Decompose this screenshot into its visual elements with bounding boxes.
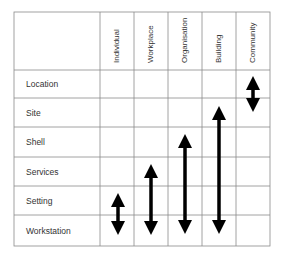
scale-matrix-diagram: Individual Workplace Organisation Buildi… [0, 0, 283, 257]
column-header-individual: Individual [112, 29, 121, 63]
row-label-services: Services [26, 167, 59, 177]
grid-and-arrows [0, 0, 283, 257]
scale-arrows [118, 83, 253, 228]
row-label-site: Site [26, 108, 41, 118]
row-label-shell: Shell [26, 137, 45, 147]
table-grid [14, 12, 270, 246]
column-header-community: Community [248, 23, 257, 63]
column-header-organisation: Organisation [180, 18, 189, 63]
row-label-workstation: Workstation [26, 226, 71, 236]
row-label-location: Location [26, 79, 58, 89]
column-header-workplace: Workplace [146, 25, 155, 63]
row-label-setting: Setting [26, 196, 52, 206]
column-header-building: Building [214, 35, 223, 63]
